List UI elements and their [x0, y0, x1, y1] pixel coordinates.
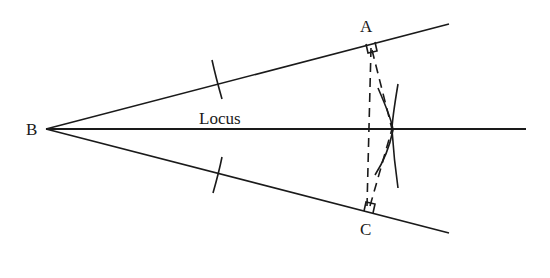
intersection-arc-left [375, 88, 393, 175]
label-A: A [360, 17, 373, 36]
lower-arc-mark [213, 157, 222, 193]
perpendicular-AC-dashed [367, 48, 371, 206]
label-B: B [26, 120, 37, 139]
angle-bisector-diagram: B A C Locus [0, 0, 550, 278]
dashed-from-C [370, 129, 392, 206]
upper-arc-mark [212, 60, 222, 99]
label-locus: Locus [199, 109, 241, 128]
intersection-arc-right [392, 84, 398, 188]
label-C: C [360, 220, 371, 239]
